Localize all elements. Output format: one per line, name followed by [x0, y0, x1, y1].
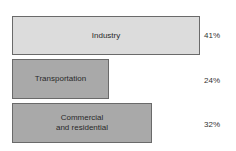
bar-transportation: Transportation: [12, 59, 109, 99]
pct-transportation: 24%: [204, 76, 220, 85]
bar-label-line1: Commercial: [61, 113, 104, 123]
pct-industry: 41%: [204, 31, 220, 40]
pct-commercial-residential: 32%: [204, 120, 220, 129]
bar-label-line2: and residential: [56, 123, 108, 133]
bar-label: Industry: [92, 31, 120, 41]
bar-industry: Industry: [12, 16, 200, 55]
bar-label: Transportation: [35, 74, 86, 84]
bar-commercial-residential: Commercial and residential: [12, 103, 152, 143]
